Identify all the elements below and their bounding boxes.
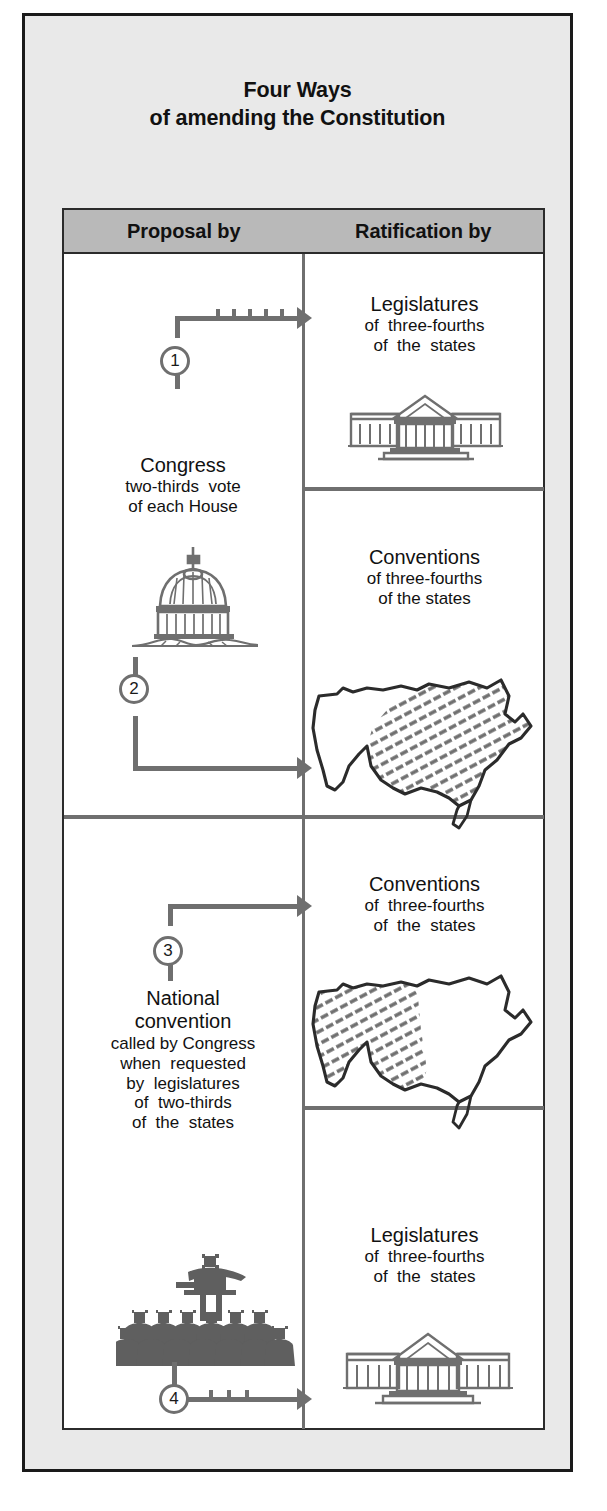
congress-line-1: Congress — [64, 454, 302, 477]
ratification-1-line-3: of the states — [305, 336, 544, 356]
national-convention-line-3: called by Congress — [64, 1034, 302, 1054]
step-1-connector-right — [175, 316, 304, 321]
ratification-2-line-1: Conventions — [305, 546, 544, 569]
step-4-tick-a — [209, 1390, 213, 1399]
proposal-text-congress: Congress two-thirds vote of each House — [64, 454, 302, 517]
step-3-arrowhead — [297, 895, 312, 917]
ratification-text-row-2: Conventions of three-fourths of the stat… — [305, 546, 544, 609]
step-marker-2: 2 — [119, 674, 149, 704]
step-marker-4-label: 4 — [169, 1389, 178, 1409]
figure-frame: Four Ways of amending the Constitution P… — [22, 13, 573, 1472]
ratification-3-line-1: Conventions — [305, 873, 544, 896]
proposal-text-national-convention: National convention called by Congress w… — [64, 987, 302, 1133]
table-header-row: Proposal by Ratification by — [64, 210, 543, 254]
convention-assembly-icon — [116, 1254, 306, 1374]
ratification-text-row-4: Legislatures of three-fourths of the sta… — [305, 1224, 544, 1287]
step-1-tick-b — [232, 309, 236, 318]
step-4-tick-b — [227, 1390, 231, 1399]
national-convention-line-2: convention — [64, 1010, 302, 1033]
ratification-4-line-1: Legislatures — [305, 1224, 544, 1247]
statehouse-building-icon-2 — [343, 1332, 513, 1414]
step-2-connector-right — [133, 766, 304, 771]
step-1-tick-c — [248, 309, 252, 318]
column-header-proposal: Proposal by — [64, 210, 304, 252]
ratification-4-line-2: of three-fourths — [305, 1247, 544, 1267]
step-marker-2-label: 2 — [129, 679, 138, 699]
ratification-3-line-2: of three-fourths — [305, 896, 544, 916]
step-marker-1: 1 — [160, 346, 190, 376]
capitol-dome-icon — [130, 542, 260, 654]
step-marker-4: 4 — [159, 1384, 189, 1414]
ratification-text-row-3: Conventions of three-fourths of the stat… — [305, 873, 544, 936]
ratification-column: Legislatures of three-fourths of the sta… — [305, 254, 544, 1429]
proposal-column: 1 Congress two-thirds vote of each House — [64, 254, 302, 1429]
step-2-arrowhead — [297, 757, 312, 779]
step-marker-3-label: 3 — [163, 941, 172, 961]
page-title-line-1: Four Ways — [25, 76, 570, 104]
national-convention-line-4: when requested — [64, 1054, 302, 1074]
congress-line-3: of each House — [64, 497, 302, 517]
page-title-line-2: of amending the Constitution — [25, 104, 570, 132]
congress-line-2: two-thirds vote — [64, 477, 302, 497]
step-marker-1-label: 1 — [170, 351, 179, 371]
step-1-tick-d — [264, 309, 268, 318]
step-1-tick-a — [216, 309, 220, 318]
step-marker-3: 3 — [153, 936, 183, 966]
step-1-tick-e — [280, 309, 284, 318]
us-map-east-shaded-icon — [309, 674, 541, 840]
step-1-arrowhead — [297, 307, 312, 329]
step-4-connector-up — [172, 1362, 177, 1386]
us-map-west-shaded-icon — [309, 970, 541, 1140]
ratification-2-line-2: of three-fourths — [305, 569, 544, 589]
ratification-3-line-3: of the states — [305, 916, 544, 936]
national-convention-line-7: of the states — [64, 1113, 302, 1133]
ratification-4-line-3: of the states — [305, 1267, 544, 1287]
amendment-table: Proposal by Ratification by 1 Congre — [62, 208, 545, 1430]
page-title: Four Ways of amending the Constitution — [25, 76, 570, 133]
national-convention-line-6: of two-thirds — [64, 1093, 302, 1113]
national-convention-line-5: by legislatures — [64, 1074, 302, 1094]
statehouse-building-icon — [348, 394, 503, 469]
ratification-1-line-1: Legislatures — [305, 293, 544, 316]
ratification-1-line-2: of three-fourths — [305, 316, 544, 336]
step-3-connector-right — [168, 904, 304, 909]
ratification-text-row-1: Legislatures of three-fourths of the sta… — [305, 293, 544, 356]
step-4-arrowhead — [297, 1388, 312, 1410]
ratification-2-line-3: of the states — [305, 589, 544, 609]
national-convention-line-1: National — [64, 987, 302, 1010]
step-2-connector-down — [133, 716, 138, 771]
step-4-tick-c — [245, 1390, 249, 1399]
column-header-ratification: Ratification by — [304, 210, 544, 252]
